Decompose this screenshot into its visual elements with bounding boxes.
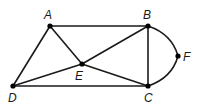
edge-a-e bbox=[50, 26, 82, 64]
vertex-label-f: F bbox=[183, 50, 191, 64]
labels-group: ABCDEF bbox=[8, 8, 191, 105]
vertex-label-a: A bbox=[43, 8, 52, 22]
vertex-b bbox=[145, 23, 150, 28]
edge-e-c bbox=[82, 64, 148, 86]
vertex-label-e: E bbox=[75, 69, 84, 83]
vertex-c bbox=[145, 83, 150, 88]
vertex-a bbox=[47, 23, 52, 28]
vertex-e bbox=[79, 61, 84, 66]
vertex-label-d: D bbox=[8, 91, 17, 105]
edge-d-e bbox=[13, 64, 82, 86]
edge-b-e bbox=[82, 26, 148, 64]
vertex-f bbox=[175, 53, 180, 58]
vertex-label-b: B bbox=[143, 8, 151, 22]
vertex-d bbox=[10, 83, 15, 88]
edge-f-c bbox=[148, 56, 178, 86]
edges-group bbox=[13, 26, 178, 86]
edge-b-f bbox=[148, 26, 178, 56]
graph-diagram: ABCDEF bbox=[0, 0, 198, 108]
edge-a-d bbox=[13, 26, 50, 86]
vertex-label-c: C bbox=[144, 91, 153, 105]
